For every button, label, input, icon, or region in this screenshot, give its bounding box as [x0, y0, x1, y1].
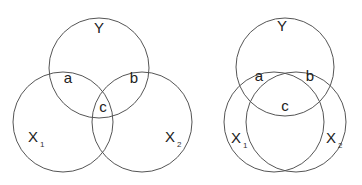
right-label-x2-subscript: 2	[338, 141, 343, 150]
left-circle-x2	[92, 72, 192, 172]
left-region-c: c	[99, 98, 107, 115]
right-label-x1-main: X	[231, 129, 241, 146]
right-circle-x2	[246, 72, 346, 172]
right-label-x1: X 1	[231, 129, 248, 150]
venn-diagrams: Y a b c X 1 X 2 Y a b c X 1 X 2	[0, 0, 362, 185]
right-region-b: b	[306, 67, 314, 84]
right-region-c: c	[281, 97, 289, 114]
right-label-x2: X 2	[326, 129, 343, 150]
left-circle-x1	[13, 72, 113, 172]
left-label-x1-subscript: 1	[40, 140, 45, 149]
left-label-x2-main: X	[165, 128, 175, 145]
left-region-a: a	[64, 69, 73, 86]
left-label-x1: X 1	[28, 128, 45, 149]
left-label-x2: X 2	[165, 128, 182, 149]
right-venn-diagram: Y a b c X 1 X 2	[224, 17, 346, 172]
left-label-y: Y	[94, 19, 104, 36]
left-label-x2-subscript: 2	[177, 140, 182, 149]
left-label-x1-main: X	[28, 128, 38, 145]
right-label-y: Y	[277, 17, 287, 34]
right-region-a: a	[255, 67, 264, 84]
right-circle-x1	[224, 72, 324, 172]
left-region-b: b	[130, 69, 138, 86]
left-venn-diagram: Y a b c X 1 X 2	[13, 18, 192, 172]
right-label-x2-main: X	[326, 129, 336, 146]
right-label-x1-subscript: 1	[243, 141, 248, 150]
